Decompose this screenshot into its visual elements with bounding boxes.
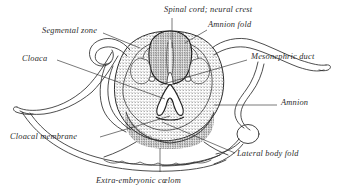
figure-caption: Extra-embryonic cœlom bbox=[96, 176, 181, 185]
amnion-fold-right-tip bbox=[319, 65, 330, 71]
label-mesonephric-duct: Mesonephric duct bbox=[251, 53, 314, 61]
ventral-stalk-left bbox=[104, 142, 136, 157]
segmental-zone-left bbox=[130, 58, 150, 84]
segmental-zone-right bbox=[189, 58, 209, 84]
label-lateral-body-fold: Lateral body fold bbox=[237, 150, 299, 158]
label-amnion-fold: Amnion fold bbox=[208, 21, 251, 29]
label-amnion: Amnion bbox=[281, 99, 308, 107]
amniotic-vesicle bbox=[237, 125, 259, 144]
amnion-right-descending-2 bbox=[241, 64, 264, 130]
embryo-body-group bbox=[110, 25, 230, 160]
embryo-cross-section-figure: Spinal cord; neural crest Amnion fold Se… bbox=[0, 0, 340, 192]
label-segmental-zone: Segmental zone bbox=[42, 27, 97, 35]
label-cloacal-membrane: Cloacal membrane bbox=[10, 133, 77, 141]
label-spinal-cord: Spinal cord; neural crest bbox=[164, 6, 252, 14]
label-cloaca: Cloaca bbox=[22, 55, 47, 63]
amnion-right-descending bbox=[235, 62, 258, 128]
mesonephric-duct-left bbox=[149, 77, 155, 82]
